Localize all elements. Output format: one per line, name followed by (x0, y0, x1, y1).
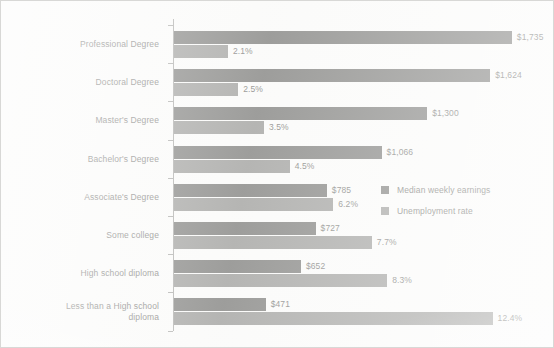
bar-unemployment-rate (174, 121, 264, 134)
legend-swatch-icon-earnings (381, 186, 389, 194)
bar-median-weekly-earnings (174, 146, 382, 159)
legend-item-median-weekly-earnings: Median weekly earnings (381, 185, 490, 195)
plot-area: Professional Degree$1,7352.1%Doctoral De… (173, 19, 543, 331)
bar-median-weekly-earnings (174, 69, 490, 82)
axis-tick (168, 331, 173, 332)
chart-row: Master's Degree$1,3003.5% (173, 107, 543, 134)
bar-unemployment-rate (174, 236, 372, 249)
chart-row: Doctoral Degree$1,6242.5% (173, 69, 543, 96)
bar-unemployment-rate (174, 45, 228, 58)
bar-median-weekly-earnings (174, 184, 327, 197)
bar-median-weekly-earnings (174, 298, 266, 311)
axis-tick (168, 178, 173, 179)
category-label: Master's Degree (9, 115, 159, 126)
bar-unemployment-rate (174, 198, 333, 211)
bar-median-weekly-earnings (174, 31, 512, 44)
bar-unemployment-rate (174, 312, 493, 325)
legend-label-earnings: Median weekly earnings (397, 185, 490, 195)
value-label-earnings: $1,066 (387, 146, 414, 159)
legend-swatch-icon-unemployment (381, 207, 389, 215)
value-label-unemployment: 3.5% (269, 121, 289, 134)
axis-tick (168, 63, 173, 64)
value-label-unemployment: 12.4% (498, 312, 523, 325)
value-label-earnings: $1,624 (495, 69, 522, 82)
chart-legend: Median weekly earnings Unemployment rate (381, 185, 490, 227)
value-label-earnings: $727 (321, 222, 340, 235)
bar-unemployment-rate (174, 160, 290, 173)
chart-figure: Professional Degree$1,7352.1%Doctoral De… (0, 0, 554, 348)
axis-tick (168, 25, 173, 26)
axis-tick (168, 292, 173, 293)
category-label: Bachelor's Degree (9, 154, 159, 165)
bar-median-weekly-earnings (174, 107, 427, 120)
category-label: Doctoral Degree (9, 77, 159, 88)
category-label: Professional Degree (9, 39, 159, 50)
value-label-earnings: $1,735 (517, 31, 544, 44)
value-label-earnings: $785 (332, 184, 351, 197)
legend-label-unemployment: Unemployment rate (397, 206, 473, 216)
value-label-unemployment: 4.5% (295, 160, 315, 173)
value-label-earnings: $471 (271, 298, 290, 311)
axis-tick (168, 216, 173, 217)
value-label-unemployment: 7.7% (377, 236, 397, 249)
value-label-unemployment: 2.1% (233, 45, 253, 58)
category-label: High school diploma (9, 268, 159, 279)
value-label-unemployment: 8.3% (392, 274, 412, 287)
value-label-earnings: $1,300 (432, 107, 459, 120)
value-label-earnings: $652 (306, 260, 325, 273)
axis-tick (168, 140, 173, 141)
value-label-unemployment: 6.2% (338, 198, 358, 211)
category-label: Less than a High school diploma (9, 301, 159, 322)
chart-row: Bachelor's Degree$1,0664.5% (173, 146, 543, 173)
bar-median-weekly-earnings (174, 260, 301, 273)
chart-row: High school diploma$6528.3% (173, 260, 543, 287)
legend-item-unemployment-rate: Unemployment rate (381, 206, 490, 216)
axis-tick (168, 101, 173, 102)
chart-row: Professional Degree$1,7352.1% (173, 31, 543, 58)
value-label-unemployment: 2.5% (243, 83, 263, 96)
bar-unemployment-rate (174, 274, 387, 287)
chart-row: Less than a High school diploma$47112.4% (173, 298, 543, 325)
bar-median-weekly-earnings (174, 222, 316, 235)
category-label: Associate's Degree (9, 192, 159, 203)
bar-unemployment-rate (174, 83, 238, 96)
category-label: Some college (9, 230, 159, 241)
axis-tick (168, 254, 173, 255)
